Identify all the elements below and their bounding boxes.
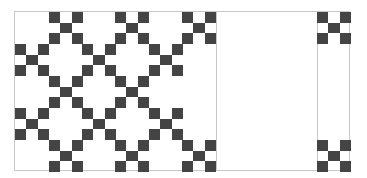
light-square [340, 151, 351, 162]
dark-square [205, 140, 216, 151]
dark-square [328, 151, 339, 162]
light-square [160, 65, 171, 76]
dark-square [182, 140, 193, 151]
dark-square [15, 44, 26, 55]
nine-patch-block [182, 12, 216, 44]
dark-square [115, 161, 126, 172]
light-square [126, 140, 137, 151]
light-square [182, 151, 193, 162]
light-square [193, 12, 204, 23]
light-square [82, 119, 93, 130]
dark-square [182, 161, 193, 172]
dark-square [205, 33, 216, 44]
dark-square [328, 23, 339, 34]
dark-square [317, 161, 328, 172]
light-square [317, 151, 328, 162]
nine-patch-block [82, 44, 116, 76]
light-square [149, 55, 160, 66]
dark-square [115, 76, 126, 87]
dark-square [172, 108, 183, 119]
nine-patch-block [149, 44, 183, 76]
dark-square [82, 129, 93, 140]
dark-square [160, 119, 171, 130]
dark-square [160, 55, 171, 66]
light-square [93, 129, 104, 140]
dark-square [126, 151, 137, 162]
light-square [72, 151, 83, 162]
light-square [49, 151, 60, 162]
light-square [172, 119, 183, 130]
light-square [72, 87, 83, 98]
nine-patch-block [49, 76, 83, 108]
nine-patch-block [49, 140, 83, 172]
dark-square [60, 87, 71, 98]
light-square [60, 140, 71, 151]
light-square [149, 119, 160, 130]
light-square [72, 23, 83, 34]
nine-patch-block [15, 108, 49, 140]
light-square [49, 23, 60, 34]
light-square [15, 119, 26, 130]
light-square [60, 33, 71, 44]
light-square [49, 87, 60, 98]
light-square [60, 12, 71, 23]
nine-patch-block [115, 140, 149, 172]
dark-square [149, 44, 160, 55]
light-square [115, 151, 126, 162]
dark-square [82, 44, 93, 55]
light-square [105, 55, 116, 66]
dark-square [49, 12, 60, 23]
light-square [193, 140, 204, 151]
light-square [126, 33, 137, 44]
light-square [105, 119, 116, 130]
dark-square [93, 55, 104, 66]
light-square [60, 76, 71, 87]
grid-divider-line [216, 12, 217, 170]
light-square [328, 33, 339, 44]
dark-square [340, 140, 351, 151]
dark-square [38, 108, 49, 119]
dark-square [172, 65, 183, 76]
nine-patch-block [317, 140, 351, 172]
light-square [38, 119, 49, 130]
light-square [205, 151, 216, 162]
dark-square [182, 33, 193, 44]
light-square [93, 108, 104, 119]
light-square [126, 12, 137, 23]
light-square [160, 129, 171, 140]
dark-square [138, 33, 149, 44]
light-square [126, 161, 137, 172]
dark-square [340, 33, 351, 44]
dark-square [138, 140, 149, 151]
dark-square [193, 23, 204, 34]
dark-square [115, 140, 126, 151]
light-square [340, 23, 351, 34]
dark-square [205, 161, 216, 172]
light-square [115, 23, 126, 34]
dark-square [149, 108, 160, 119]
dark-square [172, 129, 183, 140]
dark-square [115, 97, 126, 108]
nine-patch-block [115, 76, 149, 108]
dark-square [82, 108, 93, 119]
nine-patch-block [15, 44, 49, 76]
dark-square [105, 129, 116, 140]
light-square [93, 65, 104, 76]
light-square [93, 44, 104, 55]
dark-square [149, 65, 160, 76]
dark-square [60, 23, 71, 34]
dark-square [115, 12, 126, 23]
dark-square [26, 119, 37, 130]
light-square [328, 140, 339, 151]
dark-square [15, 108, 26, 119]
nine-patch-block [82, 108, 116, 140]
nine-patch-block [149, 108, 183, 140]
light-square [60, 97, 71, 108]
dark-square [340, 12, 351, 23]
dark-square [126, 23, 137, 34]
dark-square [193, 151, 204, 162]
light-square [193, 161, 204, 172]
dark-square [115, 33, 126, 44]
dark-square [60, 151, 71, 162]
light-square [138, 23, 149, 34]
